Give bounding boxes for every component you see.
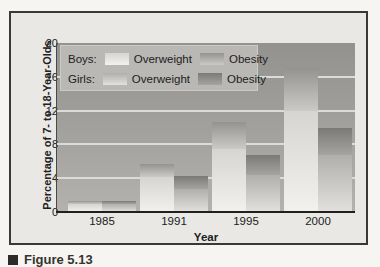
y-tick-label-20: 20 <box>18 37 58 49</box>
x-axis-title: Year <box>57 231 355 243</box>
y-tick-label-0: 0 <box>18 206 58 218</box>
x-tick-label-1991: 1991 <box>149 215 199 227</box>
bar-segment-girls_obesity-1995 <box>246 155 280 175</box>
legend-row-boys: Boys:OverweightObesity <box>60 51 258 67</box>
bar-segment-boys_obesity-1985 <box>68 201 102 204</box>
bar-segment-girls_overweight-2000 <box>318 155 352 212</box>
legend-item-label-boys_obesity: Obesity <box>229 53 268 65</box>
bar-segment-boys_obesity-2000 <box>284 68 318 110</box>
legend-item-label-girls_obesity: Obesity <box>227 73 266 85</box>
legend-item-label-boys_overweight: Overweight <box>134 53 192 65</box>
y-tick-label-16: 16 <box>18 71 58 83</box>
bar-segment-girls_obesity-1985 <box>102 201 136 204</box>
legend-row-girls: Girls:OverweightObesity <box>60 71 258 87</box>
x-axis-line <box>56 211 355 213</box>
chart-legend: Boys:OverweightObesityGirls:OverweightOb… <box>60 45 258 91</box>
bar-segment-girls_overweight-1991 <box>174 189 208 212</box>
legend-swatch-boys_obesity <box>200 53 224 65</box>
x-tick-label-1995: 1995 <box>221 215 271 227</box>
legend-swatch-girls_overweight <box>103 73 127 85</box>
legend-swatch-boys_overweight <box>105 53 129 65</box>
bar-segment-boys_overweight-2000 <box>284 111 318 212</box>
legend-swatch-girls_obesity <box>198 73 222 85</box>
y-tick-label-4: 4 <box>18 172 58 184</box>
caption-text: Figure 5.13 <box>24 252 93 267</box>
legend-item-label-girls_overweight: Overweight <box>132 73 190 85</box>
bar-segment-girls_obesity-1991 <box>174 176 208 190</box>
bar-segment-boys_obesity-1995 <box>212 122 246 149</box>
y-axis-line <box>56 43 57 212</box>
y-tick-label-8: 8 <box>18 138 58 150</box>
y-axis-title: Percentage of 7- to 18-Year-Olds <box>41 25 53 225</box>
bar-segment-boys_overweight-1995 <box>212 149 246 212</box>
bar-segment-girls_overweight-1995 <box>246 175 280 212</box>
legend-group-label: Boys: <box>68 53 97 65</box>
bar-segment-boys_obesity-1991 <box>140 164 174 177</box>
bar-segment-girls_obesity-2000 <box>318 128 352 154</box>
figure-frame: Percentage of 7- to 18-Year-Olds Boys:Ov… <box>9 11 368 245</box>
caption-square-icon <box>8 255 18 265</box>
x-tick-label-1985: 1985 <box>77 215 127 227</box>
y-tick-label-12: 12 <box>18 105 58 117</box>
bar-segment-boys_overweight-1991 <box>140 177 174 212</box>
x-tick-label-2000: 2000 <box>293 215 343 227</box>
legend-group-label: Girls: <box>68 73 95 85</box>
figure-caption: Figure 5.13 <box>8 252 93 267</box>
